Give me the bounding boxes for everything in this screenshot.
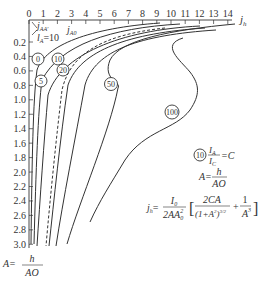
svg-text:=C: =C xyxy=(221,150,235,161)
y-tick-label: 3.0 xyxy=(14,239,27,250)
y-tick-label: 1.2 xyxy=(14,109,27,120)
svg-text:0: 0 xyxy=(36,55,40,64)
x-tick-label: 5 xyxy=(98,8,103,19)
formula: jh= I0 2AA02 [ 2CA (1+A2)3/2 + 1 A3 ] xyxy=(145,194,258,221)
y-tick-label: 2.0 xyxy=(14,167,27,178)
badge-100: 100 xyxy=(165,105,179,119)
svg-text:I0: I0 xyxy=(170,195,177,207)
x-axis-title: jh xyxy=(238,13,247,28)
x-tick-label: 1 xyxy=(41,8,46,19)
legend: 10 IA IC =C A= h AO xyxy=(194,145,235,189)
svg-text:20: 20 xyxy=(59,66,67,75)
diagram: 01234567891011121314 jh 0.20.40.60.81.01… xyxy=(0,0,265,281)
x-tick-label: 2 xyxy=(55,8,60,19)
svg-text:jAA': jAA' xyxy=(35,20,49,32)
svg-text:h: h xyxy=(30,253,35,264)
svg-text:+: + xyxy=(233,201,239,212)
svg-text:lA=10: lA=10 xyxy=(37,32,59,44)
y-tick-label: 2.8 xyxy=(14,224,27,235)
x-tick-label: 11 xyxy=(180,8,190,19)
svg-text:10: 10 xyxy=(54,55,62,64)
badge-0: 0 xyxy=(32,53,44,65)
svg-text:jh=: jh= xyxy=(145,202,159,214)
badge-5: 5 xyxy=(35,75,47,87)
y-axis-title: A= h AO xyxy=(2,253,43,278)
x-tick-label: 4 xyxy=(83,8,88,19)
y-tick-label: 1.4 xyxy=(14,123,27,134)
x-tick-label: 3 xyxy=(69,8,74,19)
badge-10: 10 xyxy=(52,53,64,65)
svg-text:5: 5 xyxy=(39,77,43,86)
x-tick-label: 6 xyxy=(112,8,117,19)
svg-text:h: h xyxy=(217,166,222,177)
x-tick-label: 7 xyxy=(126,8,131,19)
svg-text:jA0: jA0 xyxy=(65,24,76,36)
x-tick-label: 10 xyxy=(166,8,176,19)
curve-labels: 0 5 10 20 50 100 xyxy=(32,53,179,119)
svg-text:IA: IA xyxy=(208,145,216,156)
badge-20: 20 xyxy=(57,64,69,76)
x-tick-label: 13 xyxy=(209,8,219,19)
y-tick-label: 1.0 xyxy=(14,94,27,105)
svg-text:10: 10 xyxy=(196,151,204,160)
y-tick-label: 1.6 xyxy=(14,138,27,149)
y-tick-label: 2.4 xyxy=(14,195,27,206)
svg-text:AO: AO xyxy=(24,267,38,278)
svg-text:A=: A= xyxy=(198,171,212,182)
y-tick-label: 2.2 xyxy=(14,181,27,192)
badge-50: 50 xyxy=(105,78,118,91)
y-tick-label: 2.6 xyxy=(14,210,27,221)
svg-text:2CA: 2CA xyxy=(203,194,222,205)
x-tick-label: 12 xyxy=(194,8,204,19)
svg-text:AO: AO xyxy=(211,178,225,189)
x-tick-label: 14 xyxy=(223,8,233,19)
svg-text:A=: A= xyxy=(2,258,16,269)
y-tick-label: 0.6 xyxy=(14,65,27,76)
svg-text:A3: A3 xyxy=(241,207,251,219)
annotation-jaa: jAA' lA=10 xyxy=(32,20,59,44)
svg-text:100: 100 xyxy=(166,108,178,117)
y-tick-label: 0.8 xyxy=(14,80,27,91)
svg-text:50: 50 xyxy=(107,80,115,89)
svg-text:[: [ xyxy=(189,200,194,217)
x-tick-label: 9 xyxy=(154,8,159,19)
x-tick-label: 8 xyxy=(140,8,145,19)
svg-text:2AA02: 2AA02 xyxy=(163,208,183,221)
y-tick-label: 1.8 xyxy=(14,152,27,163)
y-tick-label: 0.4 xyxy=(14,51,27,62)
y-tick-label: 0.2 xyxy=(14,37,27,48)
svg-text:1: 1 xyxy=(243,194,248,205)
svg-text:]: ] xyxy=(253,200,258,217)
x-tick-label: 0 xyxy=(27,8,32,19)
y-axis: 0.20.40.60.81.01.21.41.61.82.02.22.42.62… xyxy=(14,20,34,250)
svg-text:(1+A2)3/2: (1+A2)3/2 xyxy=(195,209,226,219)
annotation-ja0: jA0 xyxy=(65,24,76,36)
